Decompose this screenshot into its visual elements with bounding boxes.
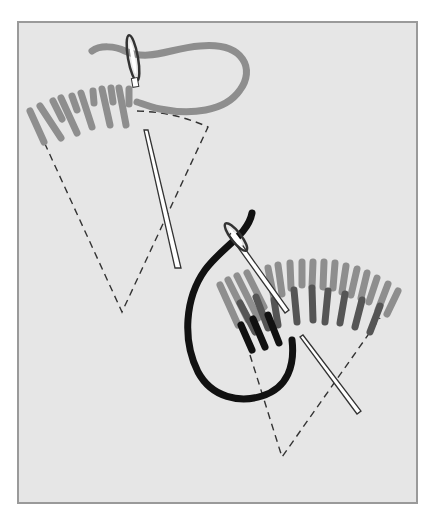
upper-needle-icon bbox=[124, 34, 181, 268]
lower-guide-lines bbox=[250, 318, 380, 457]
upper-light-stitches bbox=[30, 88, 129, 142]
embroidery-illustration bbox=[0, 0, 440, 525]
upper-guide-lines bbox=[45, 111, 208, 312]
